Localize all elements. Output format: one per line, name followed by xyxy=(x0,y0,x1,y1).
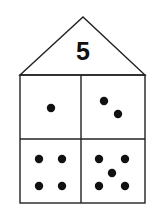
dot-top-right xyxy=(100,97,108,105)
dot-top-left xyxy=(47,104,55,112)
dot-bottom-left xyxy=(35,155,43,163)
dot-bottom-left xyxy=(58,155,66,163)
dot-bottom-right xyxy=(95,182,103,190)
number-house-diagram: 5 xyxy=(0,0,153,217)
dot-bottom-left xyxy=(35,182,43,190)
roof-number: 5 xyxy=(63,37,103,65)
house-drawing xyxy=(0,0,153,217)
dot-bottom-right xyxy=(95,155,103,163)
dot-bottom-right xyxy=(121,155,129,163)
dot-bottom-right xyxy=(121,182,129,190)
dot-bottom-left xyxy=(58,182,66,190)
dot-top-right xyxy=(114,110,122,118)
dot-bottom-right xyxy=(108,169,116,177)
